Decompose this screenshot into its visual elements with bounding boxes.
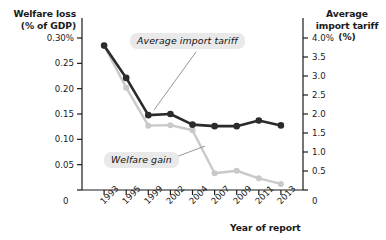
right-tick-label: 2.0 <box>312 109 326 119</box>
right-tick-label: 1.5 <box>312 128 326 138</box>
right-tick-label: 3.5 <box>312 52 326 62</box>
left-axis-zero-label: 0 <box>63 196 68 206</box>
left-tick-label: 0.05 <box>22 160 74 170</box>
left-tick-label: 0.20 <box>22 84 74 94</box>
left-tick-label: 0.30% <box>22 33 74 43</box>
chart-figure: Welfare loss (% of GDP) Average import t… <box>0 0 386 240</box>
right-tick-label: 0.5 <box>312 166 326 176</box>
right-tick-label: 1.0 <box>312 147 326 157</box>
left-tick-label: 0.25 <box>22 58 74 68</box>
right-tick-label: 3.0 <box>312 71 326 81</box>
callout-welfare-gain: Welfare gain <box>104 152 179 168</box>
right-axis-zero-label: 0 <box>312 196 317 206</box>
callout-average-import-tariff: Average import tariff <box>130 33 245 49</box>
left-tick-label: 0.10 <box>22 134 74 144</box>
right-tick-label: 4.0% <box>312 33 334 43</box>
right-tick-label: 2.5 <box>312 90 326 100</box>
left-tick-label: 0.15 <box>22 109 74 119</box>
